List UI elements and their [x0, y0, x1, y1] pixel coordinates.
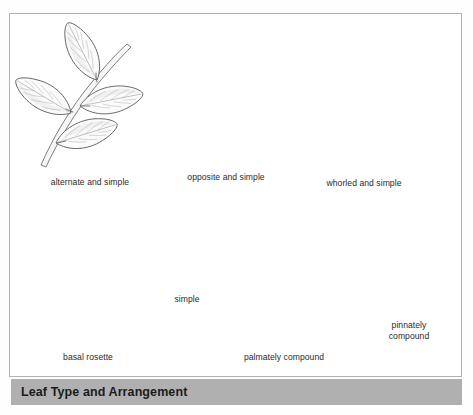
figure-caption: Leaf Type and Arrangement [21, 385, 187, 399]
label-opposite-and-simple: opposite and simple [187, 172, 264, 183]
label-pinnately-compound-line2: compound [389, 331, 430, 341]
label-whorled-and-simple: whorled and simple [327, 178, 402, 189]
label-basal-rosette: basal rosette [63, 352, 113, 363]
label-simple: simple [174, 294, 199, 305]
specimen-alternate-and-simple [9, 17, 145, 167]
caption-bar: Leaf Type and Arrangement [11, 379, 462, 405]
label-pinnately-compound-line1: pinnately [392, 320, 427, 330]
figure-root: alternate and simple opposite and simple… [0, 0, 473, 415]
label-palmately-compound: palmately compound [244, 352, 324, 363]
label-pinnately-compound: pinnately compound [389, 320, 430, 341]
label-alternate-and-simple: alternate and simple [51, 177, 129, 188]
